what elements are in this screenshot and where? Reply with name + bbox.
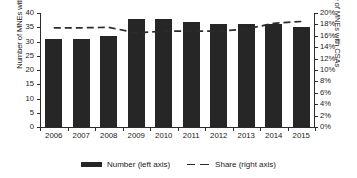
right-tick [315, 116, 318, 117]
legend-label-share: Share (right axis) [215, 160, 276, 169]
right-tick-label: 8% [320, 77, 346, 85]
left-tick-label: 30 [10, 38, 34, 46]
right-tick-label: 16% [320, 32, 346, 40]
left-tick-label: 0 [10, 123, 34, 131]
right-tick-label: 20% [320, 9, 346, 17]
bar-swatch-icon [81, 162, 102, 167]
left-tick-label: 10 [10, 95, 34, 103]
legend-label-number: Number (left axis) [107, 160, 170, 169]
right-tick [315, 36, 318, 37]
right-tick-label: 0% [320, 123, 346, 131]
right-tick-label: 18% [320, 20, 346, 28]
right-tick [315, 70, 318, 71]
right-tick [315, 104, 318, 105]
x-axis-label: 2009 [121, 131, 151, 140]
x-axis-label: 2006 [39, 131, 69, 140]
right-tick-label: 14% [320, 43, 346, 51]
chart-figure: Number of MNEs with CSA Share of MNEs wi… [0, 0, 357, 178]
right-tick [315, 59, 318, 60]
left-tick-label: 35 [10, 23, 34, 31]
x-axis-label: 2014 [259, 131, 289, 140]
right-tick-label: 10% [320, 66, 346, 74]
right-tick-label: 12% [320, 55, 346, 63]
x-axis-label: 2015 [286, 131, 316, 140]
right-tick-label: 6% [320, 89, 346, 97]
share-line [54, 22, 301, 34]
share-line-series [40, 13, 315, 127]
right-tick [315, 24, 318, 25]
x-axis-label: 2012 [204, 131, 234, 140]
chart-legend: Number (left axis) Share (right axis) [0, 157, 357, 171]
legend-item-number: Number (left axis) [81, 160, 170, 169]
right-tick-label: 2% [320, 112, 346, 120]
x-axis-labels: 2006200720082009201020112012201320142015 [40, 131, 315, 145]
left-tick-label: 20 [10, 66, 34, 74]
right-tick [315, 93, 318, 94]
left-tick-label: 25 [10, 52, 34, 60]
right-tick [315, 47, 318, 48]
left-tick-label: 5 [10, 109, 34, 117]
x-axis-label: 2008 [94, 131, 124, 140]
x-axis-label: 2010 [149, 131, 179, 140]
dashed-line-swatch-icon [187, 161, 210, 168]
x-axis-label: 2007 [66, 131, 96, 140]
right-tick [315, 81, 318, 82]
right-tick [315, 13, 318, 14]
plot-area: 4035302520151050 20%18%16%14%12%10%8%6%4… [40, 13, 315, 127]
legend-item-share: Share (right axis) [187, 160, 276, 169]
left-tick-label: 15 [10, 80, 34, 88]
left-tick-label: 40 [10, 9, 34, 17]
right-tick-label: 4% [320, 100, 346, 108]
x-axis-label: 2011 [176, 131, 206, 140]
x-axis-label: 2013 [231, 131, 261, 140]
